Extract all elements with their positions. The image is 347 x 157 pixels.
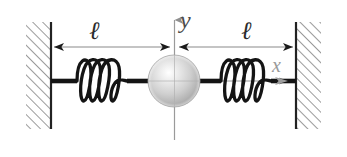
x-axis-label: x bbox=[272, 55, 281, 75]
right-spring-coil-path bbox=[221, 60, 271, 101]
left-spring bbox=[77, 60, 127, 101]
right-wall-hatching bbox=[296, 22, 321, 129]
left-length-label: ℓ bbox=[89, 18, 99, 43]
y-axis-label: y bbox=[180, 8, 191, 32]
right-spring bbox=[221, 60, 271, 101]
physics-diagram-figure: ℓ ℓ y x bbox=[0, 0, 347, 157]
left-wall bbox=[26, 22, 51, 129]
right-length-label: ℓ bbox=[241, 18, 251, 43]
right-wall bbox=[296, 22, 321, 129]
spherical-mass bbox=[148, 55, 200, 107]
diagram-canvas bbox=[0, 0, 347, 157]
left-spring-coil-path bbox=[77, 60, 127, 101]
left-wall-hatching bbox=[26, 22, 51, 129]
